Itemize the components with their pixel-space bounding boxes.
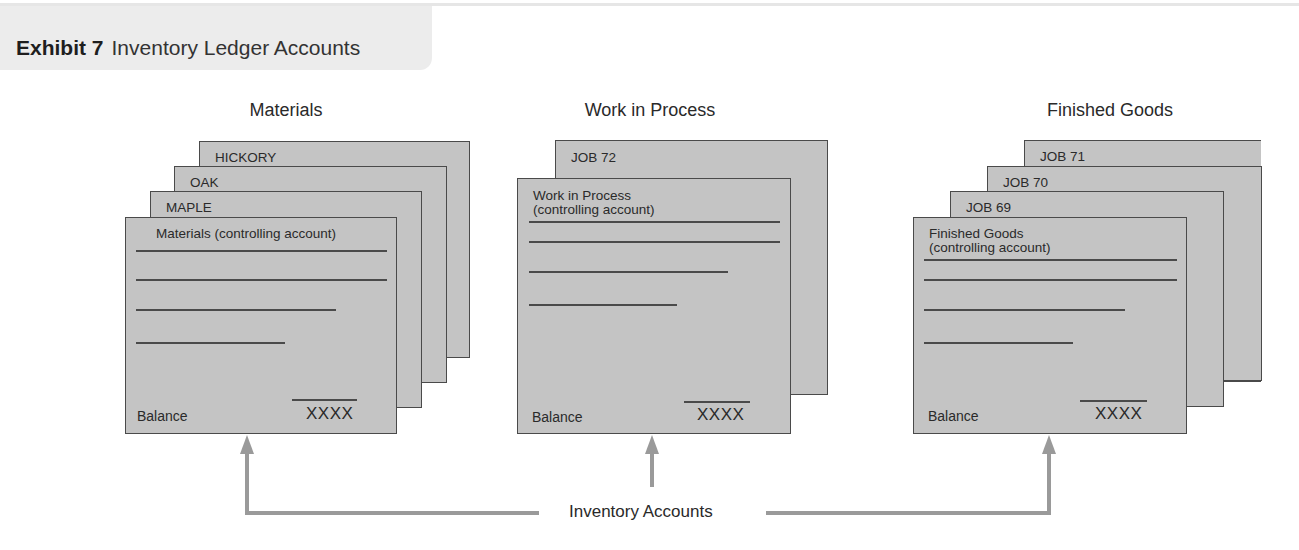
exhibit-title: Inventory Ledger Accounts <box>112 36 361 59</box>
ledger-line <box>529 304 677 306</box>
ledger-line <box>924 279 1177 281</box>
connector-line-right <box>766 511 1051 515</box>
exhibit-header: Exhibit 7Inventory Ledger Accounts <box>0 6 432 70</box>
card-label: JOB 71 <box>1040 149 1085 164</box>
card-label: OAK <box>190 175 219 190</box>
card-label: JOB 70 <box>1003 175 1048 190</box>
card-label: JOB 72 <box>571 150 616 165</box>
card-label: JOB 69 <box>966 200 1011 215</box>
controlling-card-label-line1: Finished Goods <box>929 226 1024 241</box>
ledger-line <box>529 271 728 273</box>
ledger-line <box>529 241 780 243</box>
wip-controlling-card: Work in Process (controlling account) Ba… <box>517 178 791 434</box>
balance-value: XXXX <box>1095 404 1142 424</box>
arrow-shaft <box>245 452 249 515</box>
materials-group-title: Materials <box>196 99 376 121</box>
controlling-card-label-line2: (controlling account) <box>533 202 655 217</box>
ledger-line <box>529 221 780 223</box>
ledger-line <box>136 342 285 344</box>
controlling-card-label-line1: Work in Process <box>533 188 631 203</box>
arrow-shaft <box>650 452 654 487</box>
ledger-line <box>924 259 1177 261</box>
arrow-shaft <box>1047 452 1051 515</box>
exhibit-number: Exhibit 7 <box>16 36 104 59</box>
connector-line-left <box>245 511 539 515</box>
balance-label: Balance <box>532 409 583 425</box>
wip-group-title: Work in Process <box>560 99 740 121</box>
fg-controlling-card: Finished Goods (controlling account) Bal… <box>913 217 1187 434</box>
ledger-line <box>136 279 387 281</box>
ledger-line <box>924 342 1073 344</box>
balance-rule <box>684 401 750 403</box>
ledger-line <box>924 309 1125 311</box>
inventory-accounts-label: Inventory Accounts <box>569 502 713 522</box>
controlling-card-label: Materials (controlling account) <box>156 226 336 241</box>
balance-value: XXXX <box>697 405 744 425</box>
balance-rule <box>1080 400 1147 402</box>
balance-value: XXXX <box>306 404 353 424</box>
controlling-card-label-line2: (controlling account) <box>929 240 1051 255</box>
ledger-line <box>136 309 336 311</box>
balance-rule <box>292 399 357 401</box>
balance-label: Balance <box>137 408 188 424</box>
card-label: MAPLE <box>166 200 212 215</box>
materials-controlling-card: Materials (controlling account) Balance … <box>125 217 397 434</box>
ledger-line <box>136 250 387 252</box>
balance-label: Balance <box>928 408 979 424</box>
card-label: HICKORY <box>215 150 276 165</box>
fg-group-title: Finished Goods <box>1020 99 1200 121</box>
